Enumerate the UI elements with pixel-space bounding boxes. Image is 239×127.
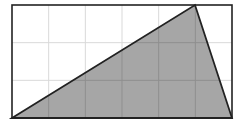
- grid-triangle-diagram: [0, 0, 239, 127]
